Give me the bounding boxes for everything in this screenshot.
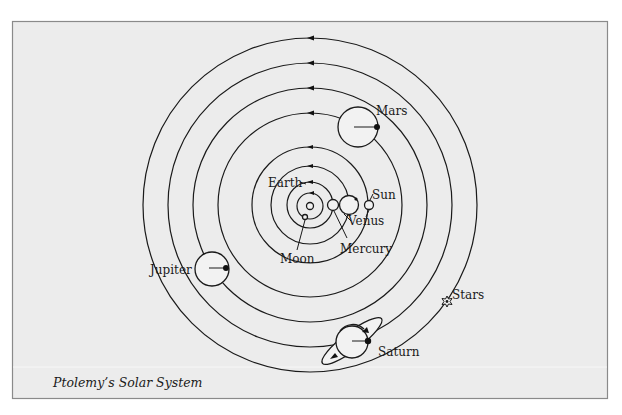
earth-body — [307, 203, 314, 210]
saturn-body — [365, 338, 371, 344]
mercury-body — [328, 200, 339, 211]
mars-label: Mars — [376, 104, 407, 118]
jupiter-epicycle — [195, 252, 229, 286]
moon-label: Moon — [280, 252, 315, 266]
stars-label: Stars — [452, 288, 484, 302]
jupiter-body — [223, 265, 229, 271]
venus-dot — [354, 197, 357, 200]
mercury-label: Mercury — [340, 242, 392, 256]
ptolemy-solar-system-diagram: Earth Moon Mercury Venus Sun Mars Jupite… — [0, 0, 622, 415]
diagram-caption: Ptolemy’s Solar System — [52, 375, 202, 390]
mars-body — [374, 124, 380, 130]
venus-label: Venus — [347, 214, 384, 228]
sun-label: Sun — [372, 188, 396, 202]
earth-label: Earth — [268, 176, 302, 190]
jupiter-label: Jupiter — [148, 263, 192, 277]
moon-body — [303, 215, 308, 220]
saturn-label: Saturn — [378, 345, 420, 359]
